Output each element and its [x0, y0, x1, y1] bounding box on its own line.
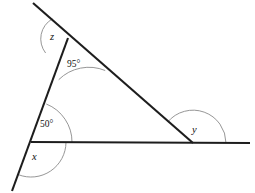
angle-label-x: x: [32, 152, 37, 163]
angle-label-y: y: [192, 125, 197, 136]
diagram-canvas: [0, 0, 255, 193]
angle-label-95: 95°: [67, 60, 80, 70]
angle-label-z: z: [50, 32, 54, 43]
geometry-figure: z 95° 50° x y: [0, 0, 255, 193]
angle-label-50: 50°: [40, 120, 53, 130]
transversal-line: [33, 3, 193, 143]
angle-arc-x: [18, 142, 66, 177]
angle-arc-95: [59, 67, 105, 79]
left-line: [12, 38, 68, 191]
horizontal-line: [31, 142, 250, 143]
